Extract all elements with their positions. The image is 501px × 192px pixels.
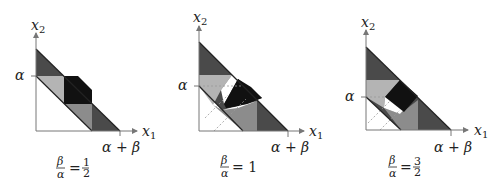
x1-axis-label: x1 — [309, 123, 323, 141]
figure-canvas: x2 x1 α α + β β α = 1 2 — [0, 0, 501, 192]
svg-text:= 1: = 1 — [232, 159, 257, 175]
panel-2: x2 x1 α α + β β α = 1 — [178, 9, 323, 180]
alpha-label: α — [178, 77, 188, 93]
x1-axis-label: x1 — [474, 122, 488, 140]
outer-boundary — [36, 49, 120, 131]
x1-axis-label: x1 — [142, 123, 156, 141]
svg-text:α: α — [221, 167, 229, 180]
ratio-label: β α = 1 — [220, 154, 257, 180]
svg-text:β: β — [220, 154, 227, 167]
x2-axis-label: x2 — [361, 14, 375, 32]
x2-axis-label: x2 — [193, 9, 207, 27]
svg-text:=: = — [400, 159, 412, 175]
panel-3: x2 x1 α α + β β α = 3 2 — [345, 14, 488, 180]
svg-text:α: α — [57, 168, 65, 181]
svg-text:α: α — [389, 167, 397, 180]
alpha-label: α — [15, 67, 25, 83]
svg-text:2: 2 — [83, 167, 90, 180]
panel-1: x2 x1 α α + β β α = 1 2 — [15, 17, 156, 181]
svg-text:β: β — [388, 154, 395, 167]
x2-axis-label: x2 — [31, 17, 45, 35]
alpha-plus-beta-label: α + β — [271, 139, 309, 155]
svg-text:β: β — [56, 155, 63, 168]
ratio-label: β α = 3 2 — [388, 154, 421, 180]
svg-text:=: = — [69, 160, 81, 176]
alpha-label: α — [345, 88, 355, 104]
ratio-label: β α = 1 2 — [56, 155, 90, 181]
alpha-plus-beta-label: α + β — [434, 139, 472, 155]
alpha-plus-beta-label: α + β — [102, 139, 140, 155]
svg-text:2: 2 — [414, 166, 421, 179]
